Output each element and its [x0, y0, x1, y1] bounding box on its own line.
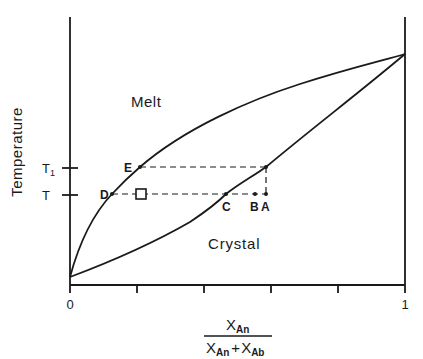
x-ticks [137, 285, 338, 293]
t-label: T [42, 188, 50, 203]
point-a [264, 192, 268, 196]
label-b: B [250, 200, 259, 214]
point-solidus-t1 [264, 165, 268, 169]
region-melt-label: Melt [131, 93, 162, 110]
point-c [224, 192, 228, 196]
x-min-label: 0 [66, 297, 73, 312]
phase-diagram: Temperature 0 1 T1 T E D C B A Melt Crys… [0, 0, 423, 359]
region-crystal-label: Crystal [208, 235, 260, 252]
point-b [253, 192, 257, 196]
x-max-label: 1 [401, 297, 408, 312]
t1-label: T1 [42, 161, 55, 178]
open-square-marker [136, 189, 146, 199]
x-label-denominator: XAn+XAb [206, 339, 264, 358]
point-e [138, 165, 142, 169]
x-label-numerator: XAn [226, 316, 249, 335]
label-a: A [261, 200, 270, 214]
label-c: C [222, 200, 231, 214]
label-d: D [100, 188, 109, 202]
point-d [110, 192, 114, 196]
y-axis-label: Temperature [8, 107, 25, 197]
label-e: E [124, 161, 132, 175]
x-axis-label: XAn XAn+XAb [204, 316, 272, 358]
